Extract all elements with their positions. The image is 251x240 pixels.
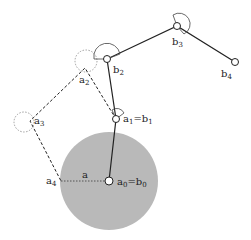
label-a1-b1: a1=b1: [123, 113, 153, 126]
node-a0-b0: [105, 177, 113, 185]
label-b2: b2: [113, 64, 124, 77]
joint-range-a2: [75, 50, 97, 72]
label-a2: a2: [79, 74, 89, 87]
label-radius-a: a: [82, 169, 88, 180]
node-a1-b1: [113, 116, 120, 123]
node-b2: [104, 56, 111, 63]
label-a4: a4: [46, 175, 57, 188]
label-b4: b4: [221, 68, 232, 81]
kinematic-diagram: a0=b0 a1=b1 a2 a3 a4 b2 b3 b4 a: [0, 0, 251, 240]
label-b3: b3: [172, 36, 183, 49]
node-b4: [232, 59, 239, 66]
label-a3: a3: [34, 115, 44, 128]
node-b3: [174, 23, 181, 30]
